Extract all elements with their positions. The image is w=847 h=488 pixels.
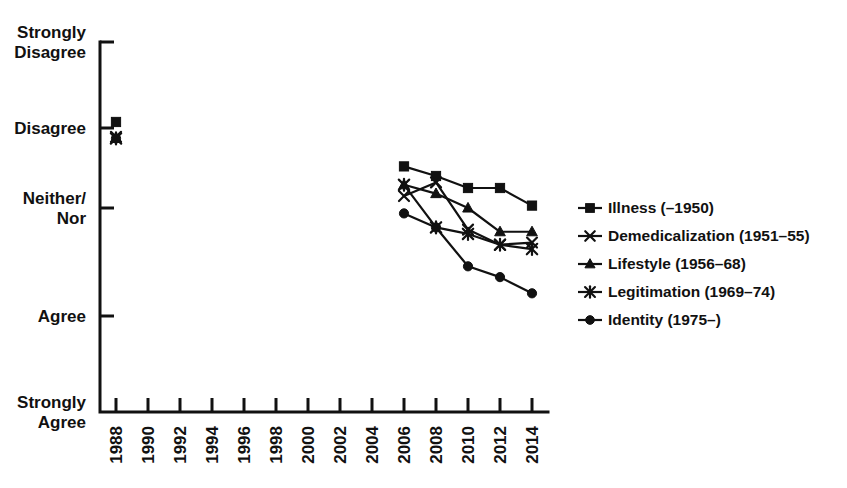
series-5: [111, 134, 536, 298]
x-axis-label: 1990: [139, 426, 158, 464]
data-point-x: [399, 191, 409, 201]
data-point-square: [399, 162, 408, 171]
data-point-square: [463, 183, 472, 192]
data-point-square: [586, 204, 595, 213]
legend-label: Demedicalization (1951–55): [608, 227, 810, 244]
legend-item[interactable]: Identity (1975–): [578, 311, 721, 328]
data-point-square: [527, 201, 536, 210]
legend-label: Illness (–1950): [608, 199, 714, 216]
chart-container: StronglyDisagreeDisagreeNeither/NorAgree…: [0, 0, 847, 488]
data-point-circle: [586, 316, 595, 325]
legend-item[interactable]: Demedicalization (1951–55): [578, 227, 810, 244]
y-axis-label: Disagree: [14, 119, 86, 138]
x-axis-label: 2006: [395, 426, 414, 464]
x-axis-label: 2004: [363, 425, 382, 463]
axis-lines: [100, 42, 548, 412]
legend-item[interactable]: Lifestyle (1956–68): [578, 255, 746, 272]
data-point-circle: [111, 134, 120, 143]
x-axis-label: 2012: [491, 426, 510, 464]
series-2: [111, 132, 537, 250]
legend-label: Identity (1975–): [608, 311, 721, 328]
plot-area: [111, 117, 538, 298]
y-axis-label: Strongly: [17, 23, 86, 42]
y-axis-label: Disagree: [14, 43, 86, 62]
data-point-square: [495, 183, 504, 192]
line-chart: StronglyDisagreeDisagreeNeither/NorAgree…: [0, 0, 847, 488]
x-axis-label: 2008: [427, 426, 446, 464]
legend-label: Lifestyle (1956–68): [608, 255, 746, 272]
y-axis-label: Strongly: [17, 393, 86, 412]
data-point-circle: [495, 273, 504, 282]
y-axis-label: Agree: [38, 413, 86, 432]
x-axis-label: 1992: [171, 426, 190, 464]
data-point-circle: [527, 289, 536, 298]
series-4: [111, 132, 537, 255]
axes: [100, 42, 548, 412]
legend: Illness (–1950)Demedicalization (1951–55…: [578, 199, 810, 328]
x-axis-label: 1988: [107, 426, 126, 464]
x-axis-label: 2010: [459, 426, 478, 464]
legend-item[interactable]: Legitimation (1969–74): [578, 283, 775, 300]
series-3: [111, 133, 538, 236]
x-axis-label: 2002: [331, 426, 350, 464]
y-axis-label: Nor: [57, 209, 87, 228]
series-1: [111, 117, 536, 210]
x-axis-label: 2000: [299, 426, 318, 464]
series-line: [404, 213, 532, 293]
y-axis-label: Neither/: [23, 189, 87, 208]
x-axis-label: 1994: [203, 425, 222, 463]
legend-label: Legitimation (1969–74): [608, 283, 775, 300]
data-point-circle: [399, 209, 408, 218]
x-axis-label: 1998: [267, 426, 286, 464]
x-axis: 1988199019921994199619982000200220042006…: [107, 398, 542, 464]
legend-item[interactable]: Illness (–1950): [578, 199, 714, 216]
x-axis-label: 1996: [235, 426, 254, 464]
data-point-circle: [431, 223, 440, 232]
data-point-square: [111, 117, 120, 126]
x-axis-label: 2014: [523, 425, 542, 463]
y-axis-label: Agree: [38, 307, 86, 326]
data-point-circle: [463, 262, 472, 271]
